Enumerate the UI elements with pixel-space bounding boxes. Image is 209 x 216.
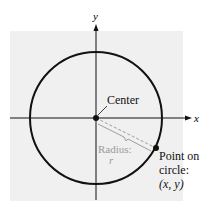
center-label: Center bbox=[107, 93, 139, 107]
point-label-line3: (x, y) bbox=[159, 177, 184, 191]
circle-diagram: y x Center Radius: r Point on circle: (x… bbox=[0, 0, 209, 216]
point-label-line2: circle: bbox=[159, 163, 189, 177]
radius-symbol: r bbox=[109, 154, 114, 166]
point-label-line1: Point on bbox=[159, 149, 199, 163]
radius-label: Radius: bbox=[98, 143, 132, 155]
y-axis-label: y bbox=[92, 10, 98, 22]
y-axis-arrow-icon bbox=[94, 24, 99, 31]
center-point bbox=[93, 115, 99, 121]
x-axis-arrow-icon bbox=[185, 116, 192, 121]
x-axis-label: x bbox=[193, 112, 199, 124]
